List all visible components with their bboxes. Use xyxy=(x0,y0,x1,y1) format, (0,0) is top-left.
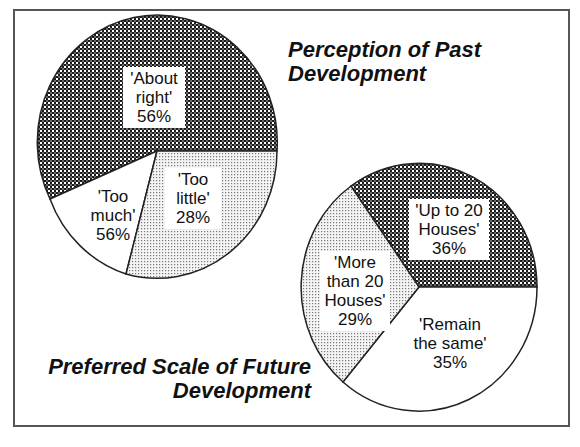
label-too-little: 'Too little' 28% xyxy=(165,168,221,229)
label-percent: 28% xyxy=(165,208,221,227)
label-percent: 35% xyxy=(405,353,495,372)
label-line: Houses' xyxy=(320,291,390,310)
label-line: 'More xyxy=(320,253,390,272)
label-line: little' xyxy=(165,189,221,208)
title-line-1: Perception of Past xyxy=(288,38,481,62)
label-line: 'About xyxy=(123,69,185,88)
label-percent: 56% xyxy=(123,107,185,126)
label-percent: 56% xyxy=(87,225,139,244)
label-about-right: 'About right' 56% xyxy=(123,67,185,128)
label-line: Houses' xyxy=(409,220,489,239)
label-line: 'Remain xyxy=(405,315,495,334)
label-percent: 29% xyxy=(320,310,390,329)
label-line: than 20 xyxy=(320,272,390,291)
label-up-to-20-houses: 'Up to 20 Houses' 36% xyxy=(409,199,489,260)
label-percent: 36% xyxy=(409,239,489,258)
label-line: 'Too xyxy=(87,187,139,206)
chart-title-future: Preferred Scale of Future Development xyxy=(33,355,311,403)
title-line-2: Development xyxy=(288,62,481,86)
label-line: the same' xyxy=(405,334,495,353)
label-too-much: 'Too much' 56% xyxy=(87,185,139,246)
label-line: 'Up to 20 xyxy=(409,201,489,220)
title-line-1: Preferred Scale of Future xyxy=(33,355,311,379)
pie-past-development xyxy=(37,15,277,278)
title-line-2: Development xyxy=(33,379,311,403)
label-remain-the-same: 'Remain the same' 35% xyxy=(405,313,495,374)
label-more-than-20-houses: 'More than 20 Houses' 29% xyxy=(320,251,390,331)
label-line: 'Too xyxy=(165,170,221,189)
chart-title-past: Perception of Past Development xyxy=(288,38,481,86)
label-line: much' xyxy=(87,206,139,225)
label-line: right' xyxy=(123,88,185,107)
